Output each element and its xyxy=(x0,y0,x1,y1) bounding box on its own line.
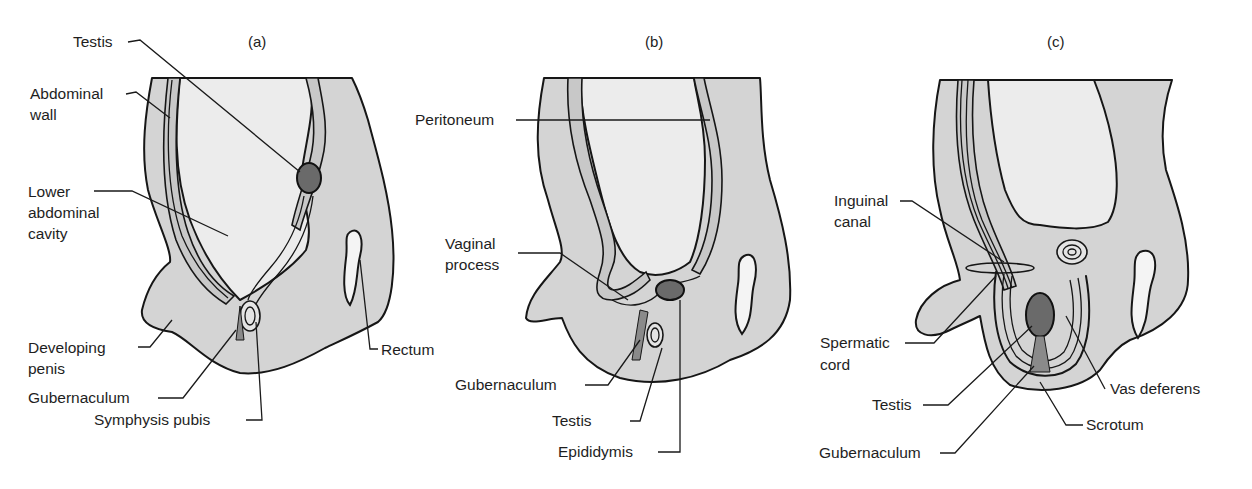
panel-c-label: (c) xyxy=(1047,33,1065,50)
label-c-testis: Testis xyxy=(872,396,912,413)
label-c-inguinal-canal: Inguinal xyxy=(834,192,888,209)
label-a-testis: Testis xyxy=(73,33,113,50)
label-c-spermatic-cord: Spermatic xyxy=(820,334,890,351)
label-b-testis: Testis xyxy=(552,412,592,429)
label-a-lower-cavity-3: cavity xyxy=(28,225,68,242)
label-b-gubernaculum: Gubernaculum xyxy=(455,376,557,393)
label-c-inguinal-canal-2: canal xyxy=(834,213,871,230)
panel-a: (a) Testis Abdominal wall Lower xyxy=(28,33,434,428)
label-a-symphysis-pubis: Symphysis pubis xyxy=(94,411,211,428)
label-b-epididymis: Epididymis xyxy=(558,443,633,460)
label-b-vaginal-process-2: process xyxy=(445,256,500,273)
panel-a-testis xyxy=(297,163,321,193)
label-a-abdominal-wall-2: wall xyxy=(29,106,57,123)
panel-b-label: (b) xyxy=(645,33,663,50)
panel-b: (b) Peritoneum Vaginal process Gubernacu… xyxy=(415,33,790,460)
label-c-vas-deferens: Vas deferens xyxy=(1110,380,1200,397)
label-b-vaginal-process: Vaginal xyxy=(445,235,496,252)
label-c-spermatic-cord-2: cord xyxy=(820,356,850,373)
label-a-developing-penis: Developing xyxy=(28,339,106,356)
testis-descent-figure: (a) Testis Abdominal wall Lower xyxy=(0,0,1252,489)
label-a-lower-cavity: Lower xyxy=(28,183,70,200)
label-c-scrotum: Scrotum xyxy=(1086,416,1144,433)
label-a-gubernaculum: Gubernaculum xyxy=(28,389,130,406)
label-a-developing-penis-2: penis xyxy=(28,360,65,377)
label-c-gubernaculum: Gubernaculum xyxy=(819,444,921,461)
label-a-lower-cavity-2: abdominal xyxy=(28,204,100,221)
label-a-rectum: Rectum xyxy=(381,341,434,358)
label-a-abdominal-wall: Abdominal xyxy=(30,85,103,102)
panel-a-symphysis-pubis xyxy=(240,301,260,331)
panel-a-label: (a) xyxy=(248,33,266,50)
panel-c: (c) Inguinal canal Spermatic co xyxy=(819,33,1200,461)
label-b-peritoneum: Peritoneum xyxy=(415,111,494,128)
panel-c-testis xyxy=(1026,293,1054,337)
panel-b-testis xyxy=(656,280,684,300)
